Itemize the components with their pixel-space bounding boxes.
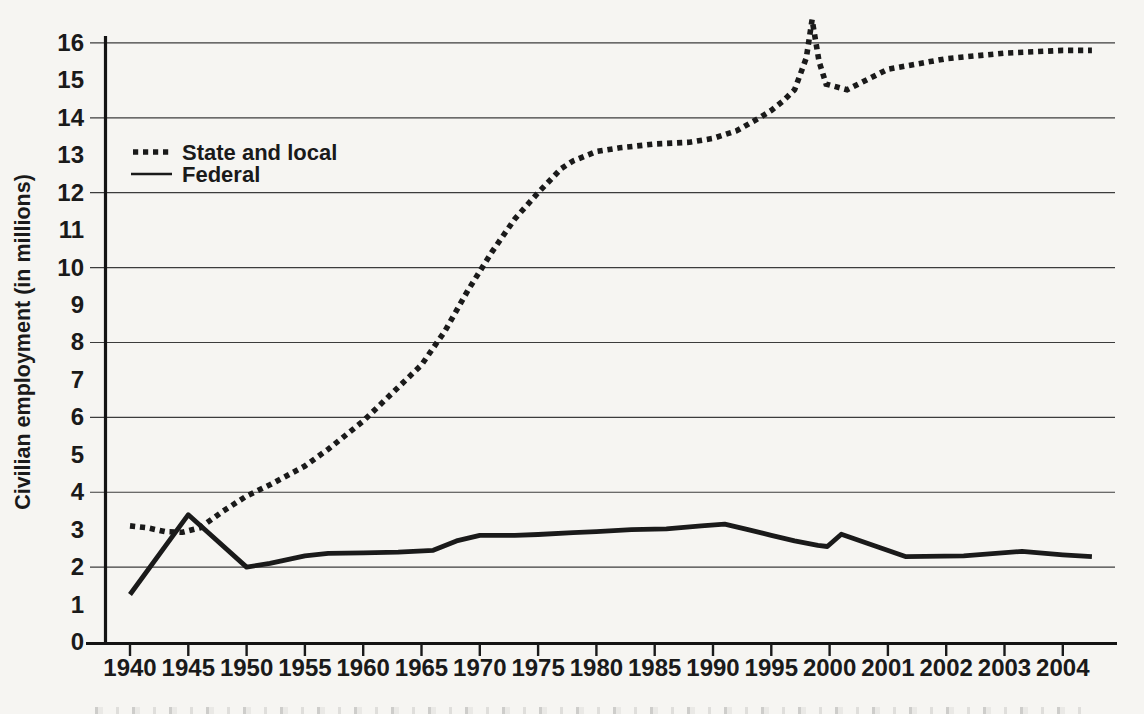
x-tick-label: 1970	[453, 654, 506, 681]
x-tick-label: 2000	[803, 654, 856, 681]
y-tick-label: 15	[57, 66, 84, 93]
series-group	[130, 20, 1092, 595]
x-tick-labels-group: 1940194519501955196019651970197519801985…	[103, 654, 1090, 681]
y-tick-label: 0	[71, 628, 84, 655]
y-tick-label: 2	[71, 553, 84, 580]
y-tick-label: 10	[57, 254, 84, 281]
x-tick-label: 2004	[1036, 654, 1090, 681]
x-tick-label: 1955	[278, 654, 331, 681]
y-tick-label: 8	[71, 328, 84, 355]
x-tick-label: 1995	[745, 654, 798, 681]
state-and-local-line	[130, 20, 1092, 533]
x-tick-label: 1990	[686, 654, 739, 681]
x-tick-label: 1985	[628, 654, 681, 681]
x-tick-label: 1960	[337, 654, 390, 681]
gridlines-group	[90, 43, 1115, 567]
y-tick-label: 14	[57, 104, 84, 131]
cropped-caption-fragment	[95, 707, 1094, 714]
y-axis-title: Civilian employment (in millions)	[11, 174, 35, 510]
chart-page: 012345678910111213141516 194019451950195…	[0, 0, 1144, 714]
y-tick-label: 12	[57, 179, 84, 206]
y-tick-label: 13	[57, 141, 84, 168]
y-tick-label: 4	[71, 478, 85, 505]
x-tick-label: 1975	[511, 654, 564, 681]
legend: State and local Federal	[131, 140, 337, 187]
x-tick-label: 1950	[220, 654, 273, 681]
y-tick-label: 5	[71, 441, 84, 468]
x-tick-label: 1945	[162, 654, 215, 681]
y-tick-label: 6	[71, 403, 84, 430]
y-tick-labels-group: 012345678910111213141516	[57, 29, 84, 655]
x-tick-label: 2001	[861, 654, 914, 681]
x-tick-label: 1980	[570, 654, 623, 681]
x-tick-label: 2003	[978, 654, 1031, 681]
y-tick-label: 3	[71, 516, 84, 543]
y-tick-label: 16	[57, 29, 84, 56]
y-tick-label: 9	[71, 291, 84, 318]
x-tick-label: 2002	[920, 654, 973, 681]
y-tick-label: 1	[71, 591, 84, 618]
x-tick-label: 1940	[103, 654, 156, 681]
employment-line-chart: 012345678910111213141516 194019451950195…	[0, 0, 1144, 714]
y-tick-label: 11	[59, 216, 84, 243]
x-tick-label: 1965	[395, 654, 448, 681]
federal-line	[130, 515, 1092, 595]
legend-label-federal: Federal	[182, 162, 260, 187]
y-tick-label: 7	[71, 366, 84, 393]
